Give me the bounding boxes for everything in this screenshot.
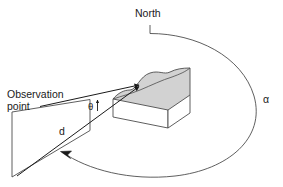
label-north: North bbox=[135, 8, 161, 20]
label-distance-d: d bbox=[59, 126, 65, 138]
label-alpha: α bbox=[263, 94, 269, 106]
diagram-canvas: North Observation point α θ d bbox=[0, 0, 283, 187]
label-observation-point: Observation point bbox=[7, 89, 64, 113]
label-theta: θ bbox=[88, 102, 93, 113]
arc-arrowhead-icon bbox=[61, 151, 72, 159]
